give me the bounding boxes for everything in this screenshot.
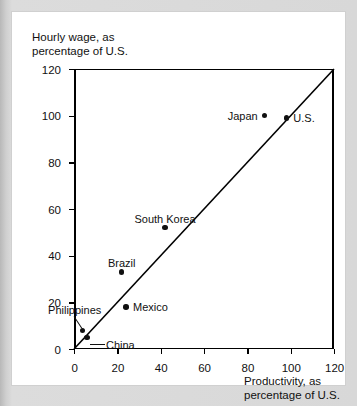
x-tick-80: 80 [247, 349, 248, 354]
data-label-u-s: U.S. [293, 112, 314, 124]
x-tick-60: 60 [204, 349, 205, 354]
x-tick-0: 0 [74, 349, 75, 354]
y-tick-label-80: 80 [48, 157, 61, 169]
x-axis-title: Productivity, as percentage of U.S. [244, 374, 340, 402]
data-label-brazil: Brazil [108, 257, 136, 269]
y-tick-label-0: 0 [55, 344, 61, 356]
y-tick-20: 20 [69, 302, 74, 303]
y-tick-label-40: 40 [48, 250, 61, 262]
data-label-china: China [106, 339, 135, 351]
y-tick-100: 100 [69, 116, 74, 117]
x-tick-120: 120 [334, 349, 335, 354]
data-label-philippines: Philippines [48, 304, 101, 316]
y-tick-40: 40 [69, 256, 74, 257]
data-point-china[interactable] [84, 335, 90, 341]
x-tick-label-120: 120 [325, 362, 344, 374]
y-tick-label-60: 60 [48, 204, 61, 216]
data-label-south-korea: South Korea [134, 213, 195, 225]
leader-line-china [90, 344, 105, 345]
x-tick-100: 100 [291, 349, 292, 354]
x-tick-label-80: 80 [242, 362, 255, 374]
x-tick-label-40: 40 [155, 362, 168, 374]
x-tick-label-20: 20 [112, 362, 125, 374]
data-label-japan: Japan [228, 110, 258, 122]
data-point-u-s[interactable] [284, 115, 290, 121]
y-axis-title: Hourly wage, as percentage of U.S. [32, 30, 128, 58]
x-tick-label-60: 60 [198, 362, 211, 374]
y-tick-120: 120 [69, 69, 74, 70]
data-label-mexico: Mexico [133, 301, 168, 313]
y-tick-60: 60 [69, 209, 74, 210]
y-tick-80: 80 [69, 162, 74, 163]
x-tick-label-100: 100 [282, 362, 301, 374]
y-tick-label-120: 120 [42, 64, 61, 76]
plot-area: 020406080100120 020406080100120 Philippi… [74, 69, 334, 349]
data-point-mexico[interactable] [123, 304, 129, 310]
figure-card: Hourly wage, as percentage of U.S. Produ… [12, 12, 345, 385]
reference-line-45-degree [74, 69, 334, 349]
x-tick-40: 40 [161, 349, 162, 354]
x-tick-label-0: 0 [71, 362, 77, 374]
y-tick-label-100: 100 [42, 110, 61, 122]
